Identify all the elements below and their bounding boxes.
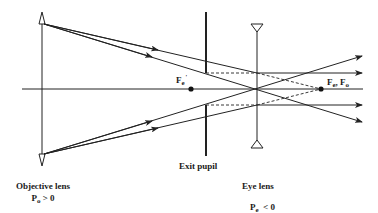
objective-bottom-arrow-icon [39,154,45,166]
eye-power-relation: < 0 [259,202,275,212]
label-fe-fo: Fe, Fo [327,78,349,87]
focal-point-fe-fo [318,86,323,91]
objective-top-arrow-icon [39,12,45,24]
fo-symbol: F [340,77,346,87]
eye-lens [251,24,263,148]
fe-symbol: F [327,77,333,87]
eye-lens-title: Eye lens [236,182,280,191]
objective-power-subscript: o [37,197,41,205]
eye-power-subscript: e [256,206,259,213]
objective-lens-power: Po > 0 [8,194,78,203]
objective-power-relation: > 0 [40,193,54,203]
fe-prime-symbol: F [176,75,182,85]
focal-point-fe-prime [188,86,193,91]
fo-subscript: o [346,81,350,89]
label-exit-pupil: Exit pupil [179,162,217,171]
fe-prime-subscript: e [182,79,185,87]
label-objective-lens: Objective lens Po > 0 [8,182,78,203]
objective-lens-title: Objective lens [8,182,78,191]
eye-lens-power: Pe < 0 [236,194,280,213]
label-fe-prime: Fe' [176,76,187,85]
label-eye-lens: Eye lens Pe < 0 [236,182,280,213]
fe-subscript: e [333,81,336,89]
eye-power-symbol: P [250,202,256,212]
eye-top-triangle-icon [251,24,263,32]
eye-bottom-triangle-icon [251,140,263,148]
